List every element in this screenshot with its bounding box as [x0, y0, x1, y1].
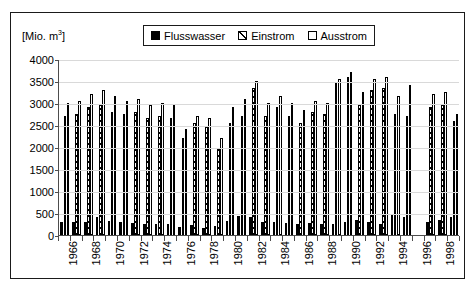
y-tick-mark: [55, 192, 59, 193]
x-axis-labels: 1966196819701972197419761978198019821984…: [58, 241, 459, 281]
legend-item-flusswasser: Flusswasser: [151, 30, 225, 42]
chart-legend: FlusswasserEinstromAusstrom: [143, 25, 375, 46]
y-tick-mark: [55, 104, 59, 105]
bar-ausstrom-1978: [208, 118, 211, 235]
bar-ausstrom-1993: [385, 77, 388, 235]
x-tick-label-1988: 1988: [327, 241, 338, 265]
bar-ausstrom-1986: [303, 110, 306, 235]
y-tick-mark: [55, 60, 59, 61]
x-tick-label-1996: 1996: [422, 241, 433, 265]
y-gridline: [59, 60, 459, 61]
y-tick-label: 0: [48, 231, 54, 242]
y-tick-label: 1000: [30, 187, 54, 198]
bar-ausstrom-1974: [161, 103, 164, 235]
x-tick-label-1984: 1984: [280, 241, 291, 265]
y-tick-mark: [55, 82, 59, 83]
bar-ausstrom-1992: [373, 79, 376, 235]
bar-ausstrom-1995: [409, 85, 412, 235]
x-tick-label-1968: 1968: [91, 241, 102, 265]
x-tick-label-1994: 1994: [398, 241, 409, 265]
y-tick-label: 3500: [30, 77, 54, 88]
y-tick-label: 500: [36, 209, 54, 220]
y-tick-label: 2000: [30, 143, 54, 154]
plot-area: [58, 60, 459, 236]
x-tick-mark: [459, 236, 460, 241]
bar-ausstrom-1983: [267, 103, 270, 235]
bar-ausstrom-1977: [196, 116, 199, 235]
y-gridline: [59, 82, 459, 83]
bar-ausstrom-1988: [326, 103, 329, 235]
white-swatch-icon: [308, 31, 317, 40]
y-tick-mark: [55, 126, 59, 127]
bar-ausstrom-1989: [338, 79, 341, 235]
bar-ausstrom-1990: [350, 72, 353, 235]
y-gridline: [59, 148, 459, 149]
y-tick-mark: [55, 214, 59, 215]
legend-item-label: Flusswasser: [164, 30, 225, 42]
x-tick-label-1974: 1974: [162, 241, 173, 265]
y-tick-label: 2500: [30, 121, 54, 132]
hatched-swatch-icon: [238, 31, 247, 40]
y-tick-mark: [55, 170, 59, 171]
chart-figure: [Mio. m3] FlusswasserEinstromAusstrom 05…: [0, 0, 475, 291]
x-tick-label-1992: 1992: [375, 241, 386, 265]
y-tick-label: 1500: [30, 165, 54, 176]
y-axis-unit-text: [Mio. m: [22, 30, 58, 42]
y-tick-label: 4000: [30, 55, 54, 66]
legend-item-label: Ausstrom: [321, 30, 367, 42]
y-gridline: [59, 104, 459, 105]
x-tick-label-1982: 1982: [257, 241, 268, 265]
y-axis-unit-close: ]: [62, 30, 65, 42]
x-tick-label-1972: 1972: [139, 241, 150, 265]
legend-item-label: Einstrom: [251, 30, 294, 42]
x-tick-label-1970: 1970: [115, 241, 126, 265]
legend-item-einstrom: Einstrom: [238, 30, 294, 42]
x-tick-label-1980: 1980: [233, 241, 244, 265]
bar-ausstrom-1979: [220, 138, 223, 235]
x-tick-label-1978: 1978: [209, 241, 220, 265]
x-tick-label-1976: 1976: [186, 241, 197, 265]
x-tick-label-1986: 1986: [304, 241, 315, 265]
y-tick-label: 3000: [30, 99, 54, 110]
y-gridline: [59, 192, 459, 193]
y-gridline: [59, 126, 459, 127]
y-axis-labels: 05001000150020002500300035004000: [12, 60, 54, 236]
x-tick-label-1998: 1998: [445, 241, 456, 265]
y-tick-mark: [55, 148, 59, 149]
bar-ausstrom-1966: [67, 103, 70, 235]
bar-ausstrom-1999: [456, 114, 459, 235]
y-axis-unit-label: [Mio. m3]: [22, 26, 65, 43]
solid-black-swatch-icon: [151, 31, 160, 40]
x-tick-label-1990: 1990: [351, 241, 362, 265]
y-gridline: [59, 170, 459, 171]
legend-item-ausstrom: Ausstrom: [308, 30, 367, 42]
bar-ausstrom-1976: [185, 129, 188, 235]
x-tick-label-1966: 1966: [68, 241, 79, 265]
bar-ausstrom-1985: [291, 103, 294, 235]
y-gridline: [59, 214, 459, 215]
